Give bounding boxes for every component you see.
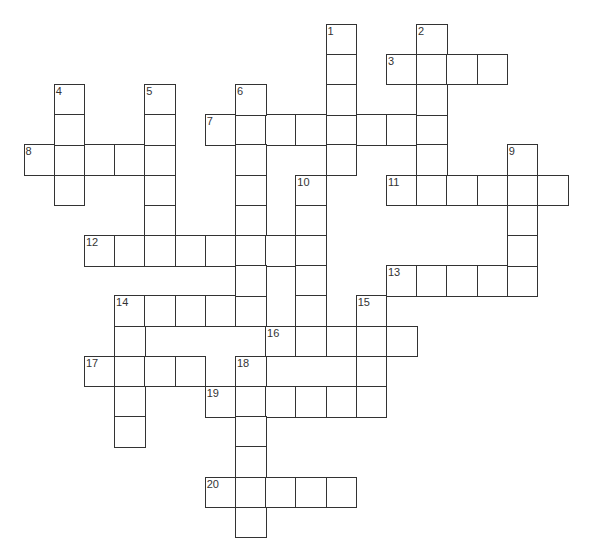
crossword-cell[interactable]	[114, 416, 146, 448]
crossword-cell[interactable]	[537, 175, 569, 207]
crossword-cell[interactable]: 10	[295, 175, 327, 207]
crossword-cell[interactable]	[326, 386, 358, 418]
crossword-cell[interactable]	[235, 265, 267, 297]
crossword-cell[interactable]: 7	[205, 114, 237, 146]
crossword-cell[interactable]	[295, 205, 327, 237]
crossword-cell[interactable]	[54, 144, 86, 176]
crossword-cell[interactable]	[386, 326, 418, 358]
crossword-cell[interactable]: 13	[386, 265, 418, 297]
crossword-cell[interactable]	[114, 386, 146, 418]
crossword-cell[interactable]	[326, 114, 358, 146]
crossword-cell[interactable]	[114, 356, 146, 388]
crossword-cell[interactable]	[326, 54, 358, 86]
crossword-cell[interactable]	[356, 386, 388, 418]
crossword-cell[interactable]	[235, 144, 267, 176]
crossword-cell[interactable]	[54, 114, 86, 146]
crossword-cell[interactable]: 8	[24, 144, 56, 176]
crossword-cell[interactable]: 1	[326, 24, 358, 56]
crossword-cell[interactable]	[235, 386, 267, 418]
crossword-cell[interactable]	[54, 175, 86, 207]
clue-number: 13	[388, 266, 400, 278]
crossword-cell[interactable]: 3	[386, 54, 418, 86]
crossword-cell[interactable]	[416, 144, 448, 176]
crossword-cell[interactable]	[416, 84, 448, 116]
crossword-cell[interactable]	[235, 416, 267, 448]
crossword-cell[interactable]	[265, 235, 297, 267]
crossword-cell[interactable]	[356, 326, 388, 358]
crossword-cell[interactable]	[507, 175, 539, 207]
crossword-cell[interactable]	[175, 356, 207, 388]
crossword-cell[interactable]	[295, 235, 327, 267]
crossword-cell[interactable]	[265, 386, 297, 418]
crossword-cell[interactable]: 5	[144, 84, 176, 116]
crossword-cell[interactable]	[386, 114, 418, 146]
crossword-cell[interactable]	[416, 114, 448, 146]
crossword-cell[interactable]	[295, 295, 327, 327]
crossword-cell[interactable]	[295, 477, 327, 509]
crossword-cell[interactable]: 9	[507, 144, 539, 176]
crossword-cell[interactable]	[265, 114, 297, 146]
crossword-cell[interactable]	[205, 235, 237, 267]
crossword-cell[interactable]	[144, 295, 176, 327]
crossword-cell[interactable]	[144, 144, 176, 176]
crossword-cell[interactable]: 12	[84, 235, 116, 267]
crossword-cell[interactable]	[144, 175, 176, 207]
crossword-cell[interactable]	[235, 205, 267, 237]
crossword-cell[interactable]: 2	[416, 24, 448, 56]
crossword-cell[interactable]	[507, 265, 539, 297]
crossword-cell[interactable]	[265, 477, 297, 509]
crossword-cell[interactable]	[235, 175, 267, 207]
crossword-cell[interactable]	[175, 295, 207, 327]
crossword-cell[interactable]	[416, 54, 448, 86]
crossword-cell[interactable]	[235, 507, 267, 539]
crossword-cell[interactable]: 4	[54, 84, 86, 116]
crossword-cell[interactable]: 17	[84, 356, 116, 388]
crossword-cell[interactable]	[356, 356, 388, 388]
crossword-cell[interactable]	[326, 326, 358, 358]
crossword-cell[interactable]	[235, 235, 267, 267]
crossword-cell[interactable]: 15	[356, 295, 388, 327]
crossword-cell[interactable]: 6	[235, 84, 267, 116]
crossword-cell[interactable]: 14	[114, 295, 146, 327]
crossword-cell[interactable]	[235, 295, 267, 327]
crossword-cell[interactable]	[326, 477, 358, 509]
crossword-cell[interactable]	[326, 144, 358, 176]
clue-number: 1	[328, 25, 334, 37]
crossword-cell[interactable]	[144, 114, 176, 146]
crossword-cell[interactable]	[295, 265, 327, 297]
crossword-cell[interactable]	[295, 326, 327, 358]
crossword-cell[interactable]: 18	[235, 356, 267, 388]
crossword-cell[interactable]	[114, 144, 146, 176]
crossword-cell[interactable]: 20	[205, 477, 237, 509]
crossword-cell[interactable]	[326, 84, 358, 116]
crossword-cell[interactable]	[235, 114, 267, 146]
crossword-cell[interactable]: 19	[205, 386, 237, 418]
crossword-cell[interactable]: 16	[265, 326, 297, 358]
crossword-cell[interactable]	[144, 356, 176, 388]
crossword-cell[interactable]	[416, 265, 448, 297]
crossword-cell[interactable]	[235, 477, 267, 509]
crossword-cell[interactable]	[416, 175, 448, 207]
crossword-cell[interactable]	[477, 175, 509, 207]
crossword-cell[interactable]	[235, 446, 267, 478]
crossword-cell[interactable]	[477, 54, 509, 86]
crossword-cell[interactable]	[144, 205, 176, 237]
clue-number: 7	[207, 115, 213, 127]
crossword-cell[interactable]	[144, 235, 176, 267]
crossword-cell[interactable]	[205, 295, 237, 327]
crossword-cell[interactable]	[356, 114, 388, 146]
crossword-cell[interactable]	[446, 175, 478, 207]
crossword-cell[interactable]	[84, 144, 116, 176]
crossword-cell[interactable]	[477, 265, 509, 297]
clue-number: 17	[86, 357, 98, 369]
crossword-cell[interactable]	[114, 326, 146, 358]
crossword-cell[interactable]: 11	[386, 175, 418, 207]
crossword-cell[interactable]	[175, 235, 207, 267]
crossword-cell[interactable]	[114, 235, 146, 267]
crossword-cell[interactable]	[446, 54, 478, 86]
crossword-cell[interactable]	[295, 386, 327, 418]
crossword-cell[interactable]	[295, 114, 327, 146]
crossword-cell[interactable]	[507, 205, 539, 237]
crossword-cell[interactable]	[446, 265, 478, 297]
crossword-cell[interactable]	[507, 235, 539, 267]
